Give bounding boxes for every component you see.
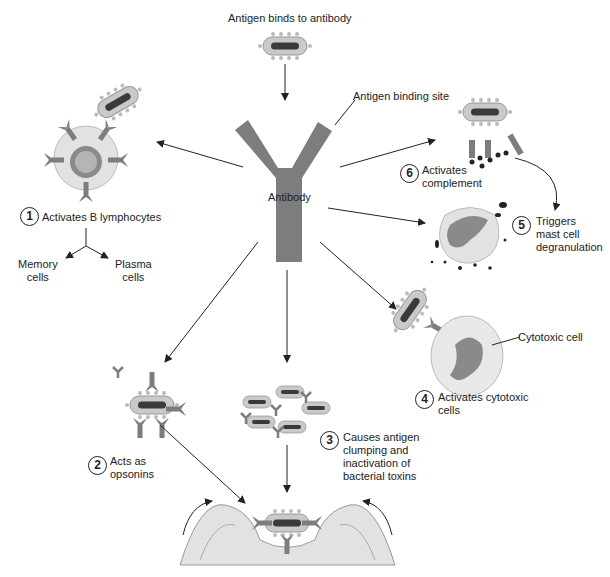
step-number-6: 6 [400, 164, 419, 183]
b-lymphocyte [44, 119, 128, 202]
step-number-5: 5 [512, 216, 531, 235]
diagram-title: Antigen binds to antibody [228, 12, 352, 25]
step-label-4: Activates cytotoxic cells [438, 391, 528, 417]
plasma-cells-label: Plasma cells [115, 258, 152, 284]
binding-site-label: Antigen binding site [353, 90, 449, 103]
step-number-4: 4 [415, 390, 434, 409]
cytotoxic-cell [431, 316, 503, 396]
step-number-2: 2 [88, 456, 107, 475]
mast-cell [440, 208, 499, 264]
step-number-3: 3 [320, 431, 339, 450]
diagram-canvas [0, 0, 610, 577]
step-number-1: 1 [20, 207, 39, 226]
cytotoxic-cell-label: Cytotoxic cell [518, 331, 583, 344]
memory-cells-label: Memory cells [18, 258, 58, 284]
step-label-1: Activates B lymphocytes [42, 211, 161, 224]
step-label-2: Acts as opsonins [110, 455, 154, 481]
antibody-label: Antibody [268, 191, 311, 204]
step-label-6: Activates complement [422, 164, 482, 190]
step-label-3: Causes antigen clumping and inactivation… [343, 431, 419, 483]
antigen-bacterium [258, 32, 312, 60]
step-label-5: Triggers mast cell degranulation [536, 215, 603, 254]
